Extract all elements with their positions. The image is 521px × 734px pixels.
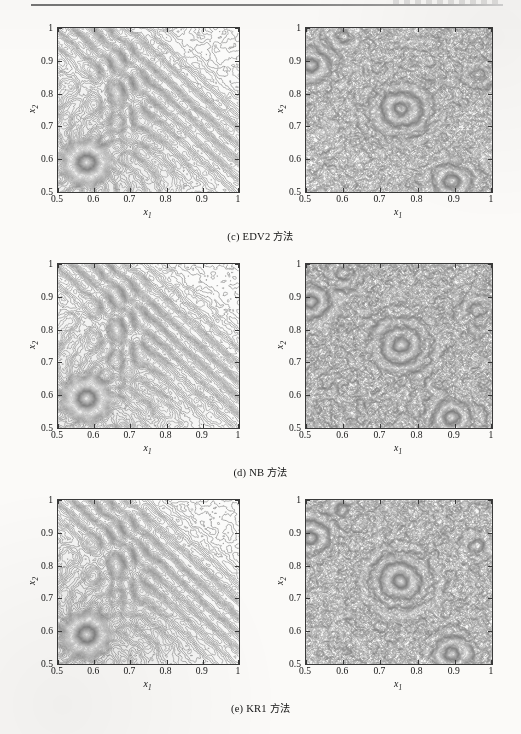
ylabel-base: x [274,345,285,349]
x-axis-label: x1 [394,442,402,456]
x-tick-bottom [418,424,419,428]
x-tick-label: 0.9 [448,193,460,204]
y-tick-right [235,500,239,501]
y-axis-label: x2 [274,332,288,358]
x-tick-top [130,500,131,504]
x-tick-bottom [343,188,344,192]
y-tick-right [235,264,239,265]
y-tick-right [488,566,492,567]
y-tick-right [488,395,492,396]
xlabel-sub: 1 [398,448,402,456]
y-tick-label: 0.5 [274,658,301,669]
x-tick-label: 0.6 [336,429,348,440]
x-tick-bottom [130,424,131,428]
contour-plot-kr1-right[interactable] [305,499,493,665]
contour-plot-nb-left[interactable] [57,263,240,429]
x-tick-top [380,500,381,504]
x-tick-label: 0.9 [196,665,208,676]
x-tick-top [418,500,419,504]
x-tick-top [380,264,381,268]
y-tick-label: 0.6 [274,389,301,400]
contour-plot-edv2-left[interactable] [57,27,240,193]
x-tick-bottom [203,660,204,664]
caption-edv2: (c) EDV2 方法 [0,228,521,243]
y-tick-right [488,126,492,127]
ylabel-sub: 2 [32,105,40,109]
x-tick-label: 0.6 [87,193,99,204]
contour-plot-kr1-left[interactable] [57,499,240,665]
y-tick-label: 0.9 [274,526,301,537]
y-tick-right [488,28,492,29]
caption-edv2-method: EDV2 [243,231,271,242]
caption-nb-prefix: (d) [233,467,246,478]
x-tick-label: 0.6 [87,429,99,440]
x-tick-label: 0.8 [160,193,172,204]
y-tick-right [488,631,492,632]
y-tick-left [58,330,62,331]
y-axis-label: x2 [26,568,40,594]
y-tick-label: 0.9 [26,290,53,301]
x-tick-top [130,28,131,32]
x-tick-label: 0.7 [123,193,135,204]
y-tick-right [235,28,239,29]
x-tick-bottom [203,188,204,192]
y-tick-label: 0.6 [26,153,53,164]
ylabel-sub: 2 [280,105,288,109]
y-tick-left [306,500,310,501]
y-tick-label: 0.5 [26,186,53,197]
figure-page: 0.50.60.70.80.910.50.60.70.80.91x1x2 0.5… [0,0,521,734]
y-tick-left [306,598,310,599]
x-tick-top [94,28,95,32]
x-tick-bottom [343,660,344,664]
x-tick-top [167,500,168,504]
y-tick-left [306,362,310,363]
ylabel-base: x [26,581,37,585]
y-tick-label: 0.5 [26,658,53,669]
x-tick-bottom [418,188,419,192]
x-tick-bottom [455,660,456,664]
caption-kr1-method: KR1 [246,703,267,714]
ylabel-base: x [274,109,285,113]
y-tick-left [306,330,310,331]
y-tick-label: 0.6 [26,389,53,400]
caption-nb-method: NB [249,467,264,478]
x-tick-bottom [380,188,381,192]
x-tick-bottom [130,660,131,664]
y-tick-right [235,61,239,62]
y-tick-left [306,159,310,160]
caption-kr1-suffix: 方法 [270,703,290,714]
x-tick-top [455,28,456,32]
y-tick-label: 0.9 [26,54,53,65]
x-tick-label: 0.8 [411,429,423,440]
ylabel-sub: 2 [280,577,288,581]
x-tick-label: 0.7 [373,665,385,676]
contour-plot-nb-right[interactable] [305,263,493,429]
y-tick-right [235,631,239,632]
header-rule [31,4,503,6]
contour-plot-edv2-right[interactable] [305,27,493,193]
y-tick-right [488,330,492,331]
y-tick-right [488,297,492,298]
d-left-contours [58,264,239,428]
x-tick-bottom [455,424,456,428]
y-tick-left [58,395,62,396]
x-tick-top [94,500,95,504]
y-tick-left [58,159,62,160]
e-right-contours [306,500,492,664]
x-tick-top [418,28,419,32]
x-tick-top [343,28,344,32]
d-right-contours [306,264,492,428]
x-tick-label: 0.9 [448,665,460,676]
x-tick-bottom [167,424,168,428]
ylabel-sub: 2 [32,341,40,345]
x-tick-label: 1 [489,193,494,204]
y-tick-left [306,94,310,95]
x-tick-bottom [94,188,95,192]
x-tick-label: 0.8 [411,193,423,204]
x-tick-top [203,28,204,32]
y-axis-label: x2 [274,568,288,594]
y-tick-right [488,533,492,534]
x-tick-top [167,28,168,32]
plotbox-nb-left [57,263,240,429]
y-tick-left [306,61,310,62]
